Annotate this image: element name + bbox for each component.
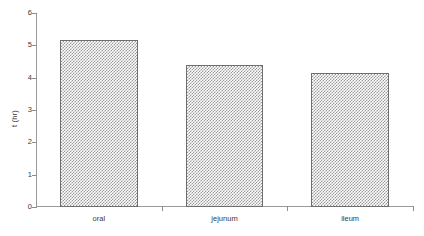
y-tick-label: 5: [28, 40, 32, 49]
bar-chart: t (hr) 0123456 oraljejunumileum: [0, 0, 424, 236]
y-tick-mark: [32, 207, 37, 208]
y-tick-label: 3: [28, 105, 32, 114]
y-axis-title: t (hr): [6, 0, 24, 236]
y-tick-label: 1: [28, 170, 32, 179]
y-tick-label: 2: [28, 137, 32, 146]
y-tick-mark: [32, 78, 37, 79]
x-tick-mark: [162, 206, 163, 211]
y-tick-mark: [32, 142, 37, 143]
y-tick-label: 4: [28, 73, 32, 82]
x-tick-mark: [287, 206, 288, 211]
x-tick-mark: [413, 206, 414, 211]
bar-oral: [60, 40, 138, 207]
y-tick-label: 0: [28, 202, 32, 211]
y-tick-label: 6: [28, 8, 32, 17]
y-tick-mark: [32, 45, 37, 46]
y-tick-mark: [32, 110, 37, 111]
bar-ileum: [311, 73, 389, 207]
y-tick-mark: [32, 13, 37, 14]
y-tick-mark: [32, 175, 37, 176]
category-label-oral: oral: [93, 214, 106, 224]
y-axis-title-text: t (hr): [10, 109, 19, 126]
bar-jejunum: [186, 65, 264, 207]
plot-area: 0123456: [36, 13, 413, 207]
category-label-ileum: ileum: [341, 214, 359, 224]
category-label-jejunum: jejunum: [211, 214, 237, 224]
